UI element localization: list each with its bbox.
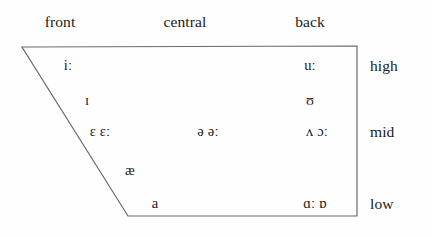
row-label-low: low <box>370 196 394 212</box>
vowel-symbol: ɪ <box>85 93 89 108</box>
column-heading-central: central <box>164 14 207 30</box>
vowel-symbol: ʊ <box>306 93 314 108</box>
vowel-symbol: iː <box>64 58 72 73</box>
column-heading-front: front <box>45 14 76 30</box>
vowel-symbol: ə əː <box>197 124 218 139</box>
vowel-symbol: a <box>152 196 159 211</box>
vowel-symbol: ɛ ɛː <box>90 124 111 139</box>
vowel-symbol: æ <box>125 163 135 178</box>
column-heading-back: back <box>295 14 325 30</box>
row-label-mid: mid <box>370 124 394 140</box>
vowel-quadrilateral-diagram: front central back high mid low iːuːɪʊɛ … <box>0 0 431 236</box>
vowel-symbol: uː <box>304 58 316 73</box>
row-label-high: high <box>370 58 398 74</box>
vowel-symbol: ɑː ɒ <box>303 196 327 211</box>
vowel-trapezoid-outline <box>0 0 431 236</box>
vowel-symbol: ʌ ɔː <box>306 124 328 139</box>
